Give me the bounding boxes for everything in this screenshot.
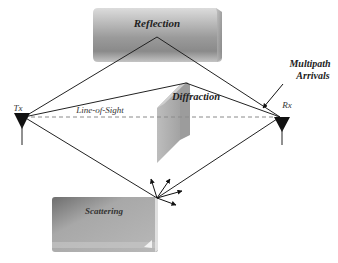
multipath-arrow-icon: [263, 84, 283, 108]
diffraction-path: [24, 83, 280, 117]
reflection-label: Reflection: [133, 17, 180, 29]
multipath-diagram: Reflection Scattering Line-of-Sight Diff…: [0, 0, 338, 263]
scattering-label: Scattering: [85, 206, 124, 216]
scattering-block: Scattering: [52, 197, 158, 252]
scattering-path: [24, 117, 280, 198]
line-of-sight-label: Line-of-Sight: [75, 105, 124, 115]
rx-label: Rx: [281, 100, 292, 110]
rx-antenna-icon: [274, 117, 290, 145]
multipath-label-line2: Arrivals: [295, 70, 329, 81]
tx-antenna-icon: [14, 113, 30, 145]
reflection-block: Reflection: [93, 8, 222, 62]
diffraction-label: Diffraction: [171, 91, 220, 102]
tx-label: Tx: [14, 103, 23, 113]
multipath-label-line1: Multipath: [288, 58, 331, 69]
